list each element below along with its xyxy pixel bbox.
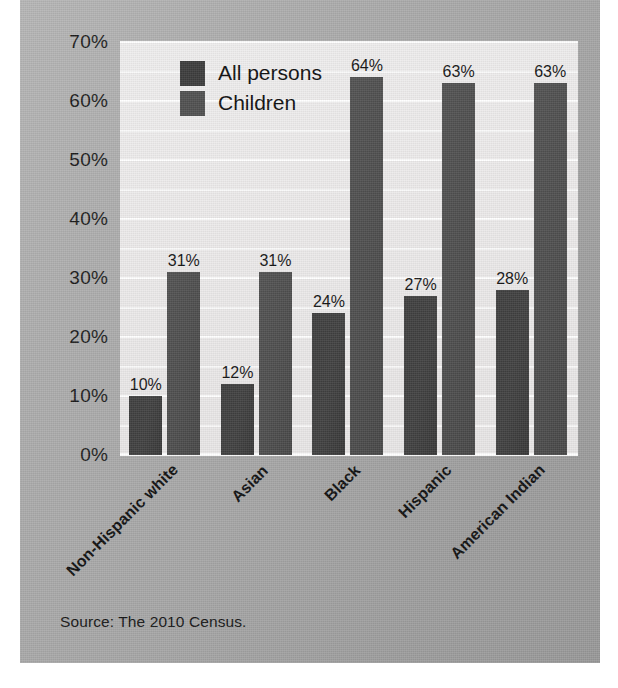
bar-fill <box>442 83 475 455</box>
y-axis-tick-label: 20% <box>69 326 108 348</box>
bar-fill <box>221 384 254 455</box>
bar: 31% <box>259 272 292 455</box>
bar: 12% <box>221 384 254 455</box>
bar: 64% <box>350 77 383 455</box>
bar-value-label: 31% <box>259 252 291 270</box>
bar-fill <box>534 83 567 455</box>
bar: 63% <box>534 83 567 455</box>
legend-label: All persons <box>218 61 322 85</box>
y-axis-tick-label: 0% <box>80 444 108 466</box>
chart-card: 0%10%20%30%40%50%60%70% 10%31%12%31%24%6… <box>20 0 600 663</box>
bar-value-label: 64% <box>351 57 383 75</box>
y-axis-labels: 0%10%20%30%40%50%60%70% <box>20 42 118 455</box>
bar-fill <box>167 272 200 455</box>
x-axis-category-label: Hispanic <box>395 462 455 522</box>
legend-item: Children <box>180 88 322 118</box>
bar-value-label: 63% <box>443 63 475 81</box>
x-axis-category-label: American Indian <box>447 461 549 563</box>
y-axis-tick-label: 60% <box>69 90 108 112</box>
y-axis-tick-label: 50% <box>69 149 108 171</box>
legend: All personsChildren <box>180 58 322 118</box>
x-axis-category-label: Non-Hispanic white <box>63 460 182 579</box>
y-axis-tick-label: 30% <box>69 267 108 289</box>
x-axis-category-label: Asian <box>228 462 272 506</box>
plot-area: 10%31%12%31%24%64%27%63%28%63% All perso… <box>120 42 578 455</box>
legend-swatch-icon <box>180 61 205 86</box>
legend-label: Children <box>218 91 296 115</box>
legend-item: All persons <box>180 58 322 88</box>
bar-group: 28%63% <box>486 42 578 455</box>
bar-value-label: 12% <box>221 364 253 382</box>
bar: 10% <box>129 396 162 455</box>
source-note: Source: The 2010 Census. <box>60 613 247 631</box>
bar-value-label: 28% <box>496 270 528 288</box>
bar-group: 27%63% <box>395 42 487 455</box>
bar-value-label: 24% <box>313 293 345 311</box>
bar-fill <box>129 396 162 455</box>
bar-fill <box>404 296 437 455</box>
bar: 63% <box>442 83 475 455</box>
bar: 24% <box>312 313 345 455</box>
bar: 27% <box>404 296 437 455</box>
bar-value-label: 27% <box>405 276 437 294</box>
bar-value-label: 63% <box>534 63 566 81</box>
bar-fill <box>496 290 529 455</box>
y-axis-tick-label: 40% <box>69 208 108 230</box>
bar-fill <box>312 313 345 455</box>
x-axis-category-labels: Non-Hispanic whiteAsianBlackHispanicAmer… <box>120 458 590 608</box>
bar-fill <box>350 77 383 455</box>
bar-fill <box>259 272 292 455</box>
bar: 31% <box>167 272 200 455</box>
bar: 28% <box>496 290 529 455</box>
chart-screenshot: 0%10%20%30%40%50%60%70% 10%31%12%31%24%6… <box>0 0 618 688</box>
y-axis-tick-label: 70% <box>69 31 108 53</box>
bar-value-label: 31% <box>168 252 200 270</box>
bar-value-label: 10% <box>130 376 162 394</box>
x-axis-category-label: Black <box>321 462 364 505</box>
legend-swatch-icon <box>180 91 205 116</box>
y-axis-tick-label: 10% <box>69 385 108 407</box>
